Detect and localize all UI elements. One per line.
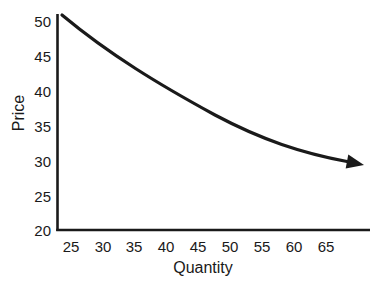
x-tick-label-40: 40 [158, 238, 175, 255]
y-tick-label-25: 25 [34, 188, 51, 205]
demand-curve-line [62, 15, 347, 162]
x-axis-title: Quantity [173, 259, 233, 276]
y-tick-label-35: 35 [34, 118, 51, 135]
y-axis-title: Price [10, 95, 27, 132]
y-tick-label-40: 40 [34, 83, 51, 100]
x-tick-label-65: 65 [318, 238, 335, 255]
y-tick-label-50: 50 [34, 13, 51, 30]
chart-canvas: 50 45 40 35 30 25 20 25 30 35 40 45 50 5… [0, 0, 386, 291]
curve-arrowhead-icon [346, 155, 364, 169]
x-tick-label-50: 50 [222, 238, 239, 255]
x-tick-label-35: 35 [126, 238, 143, 255]
y-tick-label-30: 30 [34, 153, 51, 170]
x-tick-label-45: 45 [190, 238, 207, 255]
x-tick-label-55: 55 [254, 238, 271, 255]
x-tick-label-25: 25 [63, 238, 80, 255]
x-tick-label-30: 30 [95, 238, 112, 255]
y-tick-label-20: 20 [34, 222, 51, 239]
demand-curve-chart: 50 45 40 35 30 25 20 25 30 35 40 45 50 5… [0, 0, 386, 291]
x-tick-label-60: 60 [286, 238, 303, 255]
y-tick-label-45: 45 [34, 48, 51, 65]
